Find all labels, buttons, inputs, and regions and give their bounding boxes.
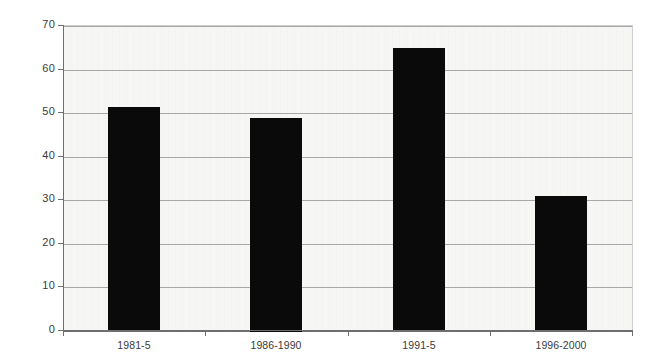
plot-area bbox=[63, 25, 633, 331]
y-axis-label: 70 bbox=[3, 19, 55, 30]
y-axis-tick-30 bbox=[58, 199, 63, 200]
bar-1991-5 bbox=[393, 48, 445, 331]
bar-1981-5 bbox=[108, 107, 160, 331]
x-axis-tick-1 bbox=[205, 331, 206, 336]
y-axis-label: 0 bbox=[3, 324, 55, 335]
y-axis-label: 50 bbox=[3, 106, 55, 117]
y-axis-label: 40 bbox=[3, 150, 55, 161]
y-axis-label: 10 bbox=[3, 280, 55, 291]
bar-1986-1990 bbox=[250, 118, 302, 332]
x-axis-tick-3 bbox=[490, 331, 491, 336]
x-axis-label-1991-5: 1991-5 bbox=[369, 339, 469, 351]
x-axis-label-1986-1990: 1986-1990 bbox=[226, 339, 326, 351]
y-axis-label-wrap-10: 10 bbox=[0, 280, 55, 291]
y-axis-label: 30 bbox=[3, 193, 55, 204]
y-axis-label-wrap-20: 20 bbox=[0, 237, 55, 248]
y-axis-label-wrap-40: 40 bbox=[0, 150, 55, 161]
y-axis-tick-70 bbox=[58, 25, 63, 26]
y-axis-tick-50 bbox=[58, 112, 63, 113]
y-axis-tick-20 bbox=[58, 243, 63, 244]
y-axis-label-wrap-0: 0 bbox=[0, 324, 55, 335]
x-axis-label-1996-2000: 1996-2000 bbox=[511, 339, 611, 351]
x-axis-tick-4 bbox=[632, 331, 633, 336]
y-axis-label-wrap-70: 70 bbox=[0, 19, 55, 30]
y-axis-tick-60 bbox=[58, 69, 63, 70]
bar-chart: 706050403020100 1981-51986-19901991-5199… bbox=[0, 0, 662, 364]
x-axis-tick-2 bbox=[348, 331, 349, 336]
y-axis-label-wrap-50: 50 bbox=[0, 106, 55, 117]
y-axis-label: 60 bbox=[3, 63, 55, 74]
y-axis-label-wrap-30: 30 bbox=[0, 193, 55, 204]
x-axis-tick-0 bbox=[63, 331, 64, 336]
y-axis-label-wrap-60: 60 bbox=[0, 63, 55, 74]
y-axis-label: 20 bbox=[3, 237, 55, 248]
y-axis-line bbox=[63, 25, 64, 331]
bar-1996-2000 bbox=[535, 196, 587, 331]
y-axis-tick-10 bbox=[58, 286, 63, 287]
gridline-60 bbox=[63, 70, 632, 71]
x-axis-label-1981-5: 1981-5 bbox=[84, 339, 184, 351]
gridline-70 bbox=[63, 26, 632, 27]
y-axis-tick-40 bbox=[58, 156, 63, 157]
